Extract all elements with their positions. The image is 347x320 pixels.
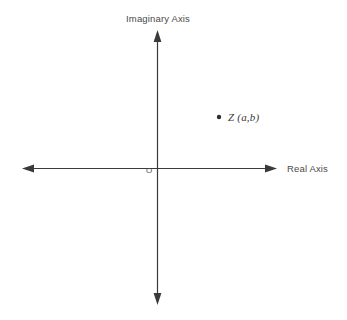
point-z-label: Z (a,b) — [228, 111, 259, 123]
imaginary-axis-top-arrowhead-icon — [154, 30, 162, 42]
argand-diagram-canvas — [0, 0, 347, 320]
origin-label: O — [146, 166, 152, 175]
real-axis-left-arrowhead-icon — [22, 165, 34, 173]
real-axis-right-arrowhead-icon — [265, 165, 277, 173]
imaginary-axis-bottom-arrowhead-icon — [154, 293, 162, 305]
complex-plane-figure: Imaginary Axis Real Axis O Z (a,b) — [0, 0, 347, 320]
point-z-marker — [217, 115, 221, 119]
imaginary-axis-label: Imaginary Axis — [120, 13, 196, 24]
real-axis-label: Real Axis — [287, 163, 328, 174]
